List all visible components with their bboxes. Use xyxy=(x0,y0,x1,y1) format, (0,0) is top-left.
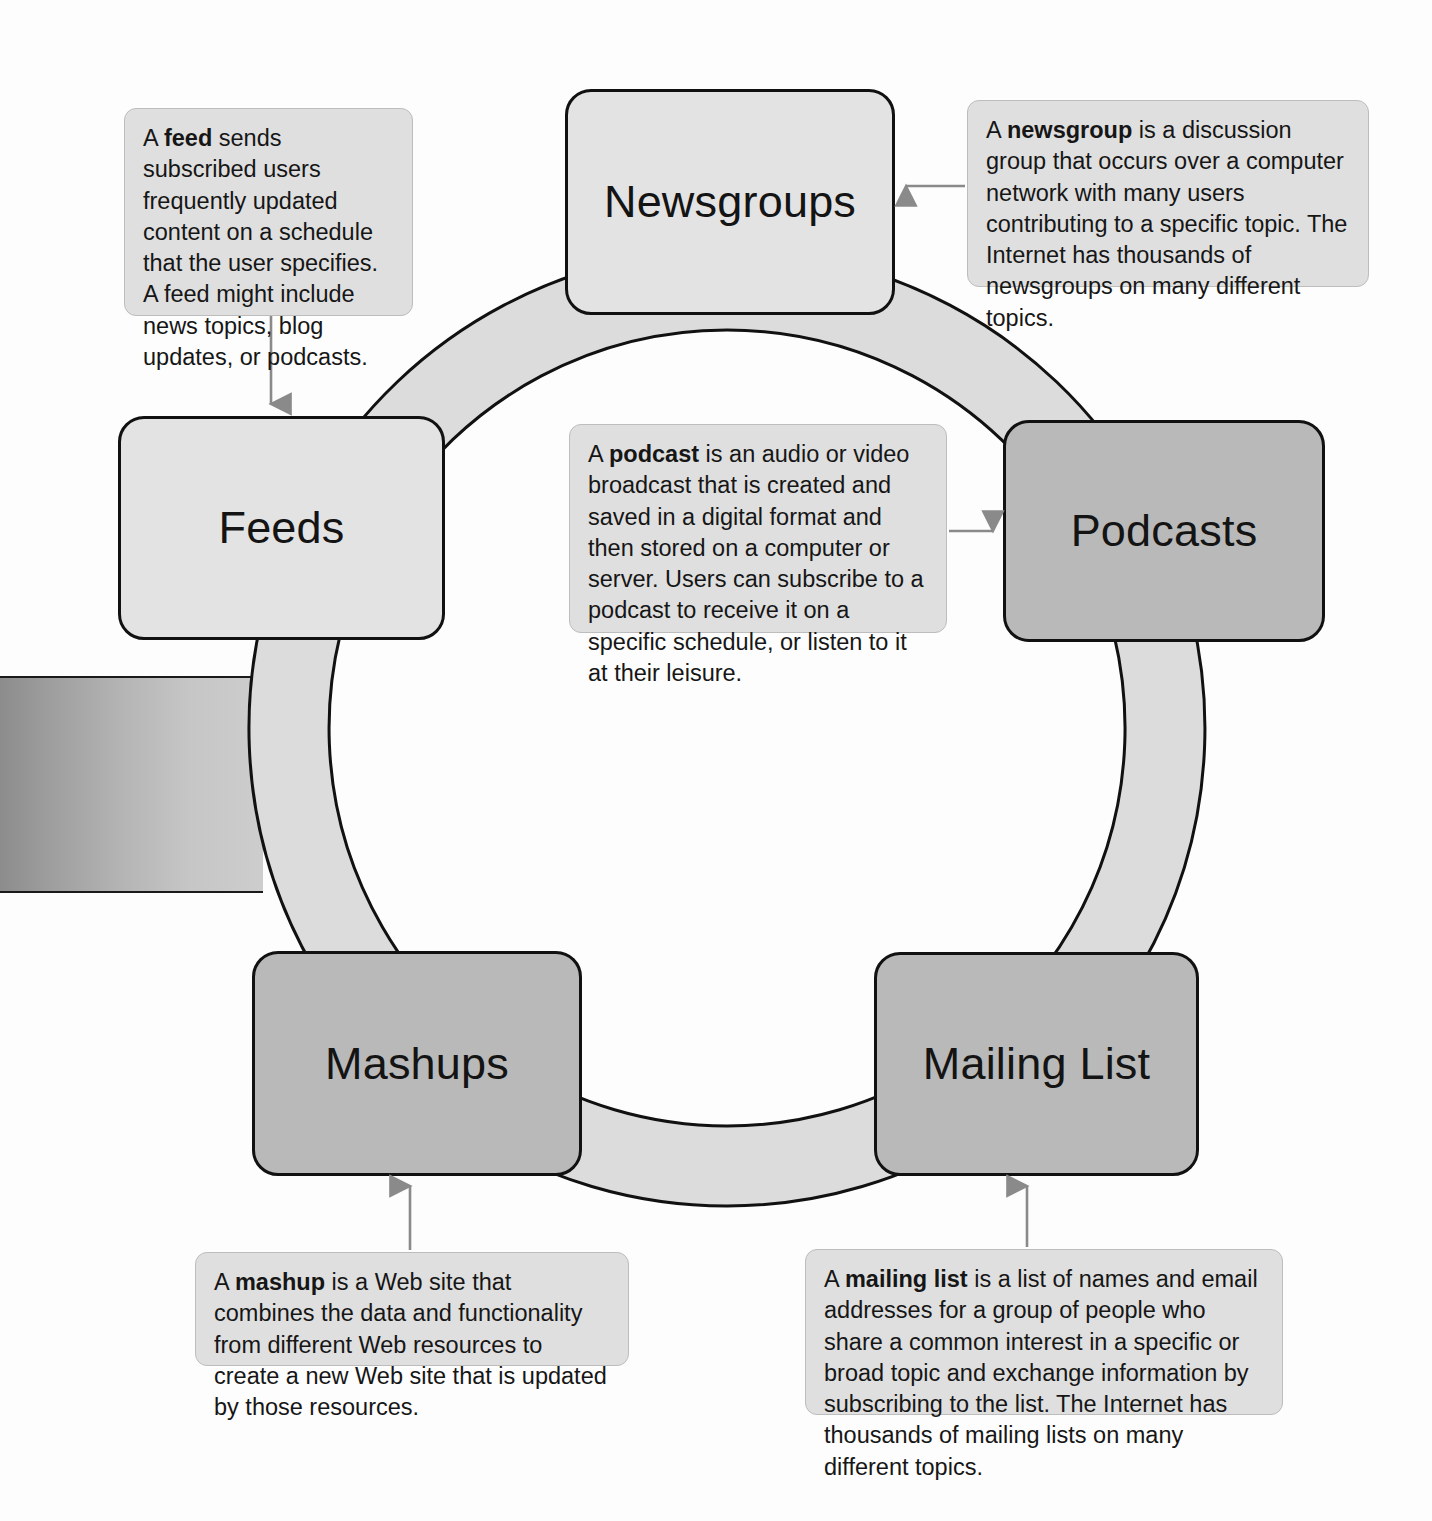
diagram-canvas: Newsgroups Podcasts Feeds Mashups Mailin… xyxy=(0,0,1432,1521)
callout-newsgroup-lead: A xyxy=(986,117,1007,143)
callout-feed-term: feed xyxy=(164,125,212,151)
page-edge-gradient-bar xyxy=(0,676,263,893)
node-mashups-label: Mashups xyxy=(325,1039,509,1089)
callout-podcast-lead: A xyxy=(588,441,609,467)
node-feeds[interactable]: Feeds xyxy=(118,416,445,640)
callout-feed-body: sends subscribed users frequently update… xyxy=(143,125,378,370)
callout-podcast: A podcast is an audio or video broadcast… xyxy=(569,424,947,633)
callout-podcast-body: is an audio or video broadcast that is c… xyxy=(588,441,924,686)
callout-mailing-list: A mailing list is a list of names and em… xyxy=(805,1249,1283,1415)
callout-newsgroup-term: newsgroup xyxy=(1007,117,1132,143)
node-podcasts-label: Podcasts xyxy=(1071,506,1258,556)
callout-feed: A feed sends subscribed users frequently… xyxy=(124,108,413,316)
node-podcasts[interactable]: Podcasts xyxy=(1003,420,1325,642)
callout-mashup-term: mashup xyxy=(235,1269,325,1295)
node-newsgroups[interactable]: Newsgroups xyxy=(565,89,895,315)
node-mashups[interactable]: Mashups xyxy=(252,951,582,1176)
callout-feed-lead: A xyxy=(143,125,164,151)
callout-mailing-list-body: is a list of names and email addresses f… xyxy=(824,1266,1258,1480)
callout-newsgroup-body: is a discussion group that occurs over a… xyxy=(986,117,1347,331)
node-mailing-list[interactable]: Mailing List xyxy=(874,952,1199,1176)
callout-mashup-lead: A xyxy=(214,1269,235,1295)
node-mailing-list-label: Mailing List xyxy=(923,1039,1151,1089)
node-feeds-label: Feeds xyxy=(218,503,344,553)
callout-mailing-list-term: mailing list xyxy=(845,1266,968,1292)
callout-newsgroup: A newsgroup is a discussion group that o… xyxy=(967,100,1369,287)
node-newsgroups-label: Newsgroups xyxy=(604,177,856,227)
callout-mailing-list-lead: A xyxy=(824,1266,845,1292)
callout-mashup: A mashup is a Web site that combines the… xyxy=(195,1252,629,1366)
callout-podcast-term: podcast xyxy=(609,441,699,467)
